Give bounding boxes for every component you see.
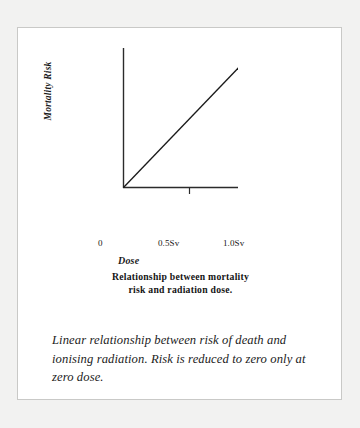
figure: Mortality Risk 0 0.5Sv 1.0Sv Dose Relati…: [18, 28, 343, 278]
x-tick-label-zero: 0: [98, 238, 103, 248]
mortality-risk-line-chart: [78, 48, 238, 228]
figure-caption: Relationship between mortality risk and …: [18, 271, 343, 296]
page-sheet: Mortality Risk 0 0.5Sv 1.0Sv Dose Relati…: [17, 27, 342, 400]
x-tick-label-one: 1.0Sv: [223, 238, 244, 248]
body-paragraph: Linear relationship between risk of deat…: [52, 331, 314, 387]
data-line-mortality-risk: [124, 50, 239, 188]
body-line-2: ionising radiation. Risk is reduced to z…: [52, 350, 314, 369]
x-tick-label-half: 0.5Sv: [158, 238, 179, 248]
figure-caption-line-1: Relationship between mortality: [18, 271, 343, 284]
x-axis-label: Dose: [118, 255, 238, 266]
body-line-1: Linear relationship between risk of deat…: [52, 331, 314, 350]
chart-plot-area: [78, 48, 238, 228]
body-line-3: zero dose.: [52, 368, 314, 387]
figure-caption-line-2: risk and radiation dose.: [18, 284, 343, 297]
y-axis-label: Mortality Risk: [43, 43, 53, 139]
